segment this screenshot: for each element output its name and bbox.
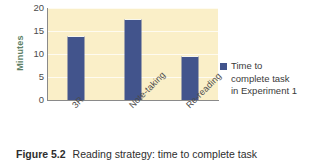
chart-legend: Time to complete task in Experiment 1: [220, 60, 313, 98]
bar[interactable]: [68, 36, 85, 100]
figure-caption-text: Reading strategy: time to complete task: [73, 148, 257, 160]
bar-slot: [48, 8, 105, 100]
legend-swatch-icon: [220, 63, 227, 70]
bar[interactable]: [124, 19, 141, 100]
x-axis-tick-labels: 3RNote-takingRe-reading: [48, 101, 218, 141]
figure-caption-label: Figure 5.2: [16, 148, 66, 160]
y-tick-label: 5: [26, 72, 44, 82]
y-tick-label: 20: [26, 3, 44, 13]
y-tick-label: 15: [26, 26, 44, 36]
y-axis-tick-labels: 05101520: [26, 8, 44, 100]
figure-caption: Figure 5.2Reading strategy: time to comp…: [16, 148, 313, 161]
y-tick-label: 0: [26, 95, 44, 105]
bars-layer: [48, 8, 218, 100]
figure-container: Minutes 05101520 3RNote-takingRe-reading…: [0, 0, 313, 168]
legend-item: Time to complete task in Experiment 1: [220, 60, 313, 98]
y-axis-title: Minutes: [15, 23, 25, 83]
y-tick-label: 10: [26, 49, 44, 59]
plot-area: [48, 8, 218, 100]
legend-label: Time to complete task in Experiment 1: [231, 60, 297, 98]
